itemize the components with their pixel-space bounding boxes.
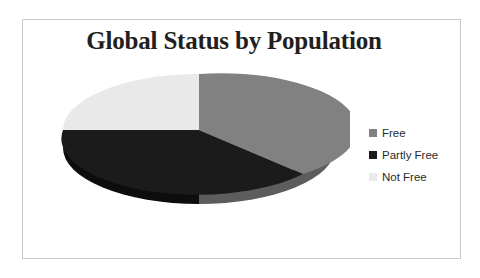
legend-label-not-free: Not Free bbox=[382, 171, 427, 184]
pie-chart-plot-area bbox=[55, 66, 350, 256]
pie-slice-top-not-free bbox=[63, 74, 199, 130]
legend-swatch-icon-partly-free bbox=[369, 151, 377, 159]
pie-chart-svg bbox=[55, 66, 350, 256]
chart-legend: Free Partly Free Not Free bbox=[369, 122, 461, 188]
chart-title: Global Status by Population bbox=[22, 26, 446, 56]
chart-canvas: Global Status by Population Free Partly … bbox=[0, 0, 480, 278]
legend-item-free[interactable]: Free bbox=[369, 122, 461, 144]
legend-item-not-free[interactable]: Not Free bbox=[369, 166, 461, 188]
legend-item-partly-free[interactable]: Partly Free bbox=[369, 144, 461, 166]
legend-swatch-icon-not-free bbox=[369, 173, 377, 181]
legend-label-free: Free bbox=[382, 127, 406, 140]
legend-swatch-icon-free bbox=[369, 129, 377, 137]
legend-label-partly-free: Partly Free bbox=[382, 149, 438, 162]
